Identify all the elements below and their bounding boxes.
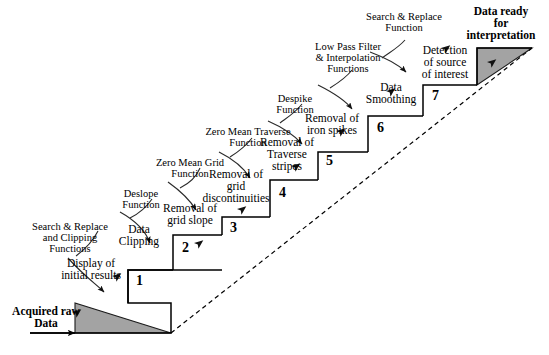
stage-label-8: Detection of source of interest <box>413 45 477 81</box>
stage-number-3: 3 <box>230 220 237 236</box>
stage-label-6: Removal of iron spikes <box>294 113 370 137</box>
function-label-f2: Deslope Function <box>108 189 174 211</box>
stage-number-5: 5 <box>326 153 333 169</box>
function-label-f4: Zero Mean Traverse Function <box>192 127 304 149</box>
stage-number-4: 4 <box>279 185 286 201</box>
function-label-f3: Zero Mean Grid Function <box>142 158 238 180</box>
stage-number-6: 6 <box>377 120 384 136</box>
function-label-f5: Despike Function <box>262 94 328 116</box>
output-label: Data ready for interpretation <box>455 6 547 42</box>
processing-staircase-diagram: Display of initial results 1 Data Clippi… <box>0 0 549 355</box>
stage-label-1: Display of initial results <box>48 258 134 282</box>
exit-shaded-triangle <box>477 48 532 85</box>
function-label-f1: Search & Replace and Clipping Functions <box>18 222 122 255</box>
input-label: Acquired raw Data <box>4 306 88 330</box>
stage-label-7: Data Smoothing <box>358 82 424 106</box>
stage-number-7: 7 <box>432 88 439 104</box>
stage-number-2: 2 <box>182 240 189 256</box>
stage-number-1: 1 <box>136 273 143 289</box>
function-label-f7: Search & Replace Function <box>352 12 456 34</box>
function-label-f6: Low Pass Filter & Interpolation Function… <box>296 42 400 75</box>
entry-shaded-triangle <box>75 303 171 333</box>
